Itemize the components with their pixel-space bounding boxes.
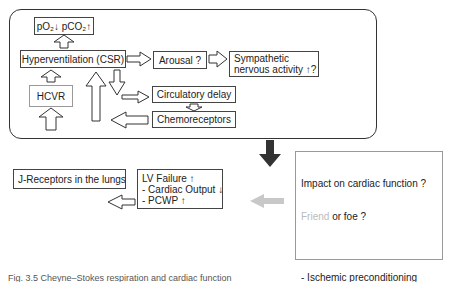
arrow-down-icon — [109, 70, 125, 95]
arrows-layer — [0, 0, 451, 282]
arrow-left-icon — [111, 112, 148, 128]
arrow-up-icon — [41, 70, 61, 82]
arrow-up-icon — [54, 35, 74, 48]
figure-caption: Fig. 3.5 Cheyne–Stokes respiration and c… — [8, 273, 232, 282]
arrow-down-icon — [186, 104, 202, 111]
arrow-right-icon — [127, 52, 151, 66]
arrow-up-icon — [39, 108, 63, 130]
arrow-right-icon — [209, 51, 227, 67]
arrow-left-icon — [108, 195, 135, 209]
arrow-right-icon — [122, 91, 149, 103]
arrow-up-icon — [86, 72, 106, 121]
arrow-down-dark-icon — [259, 140, 281, 167]
